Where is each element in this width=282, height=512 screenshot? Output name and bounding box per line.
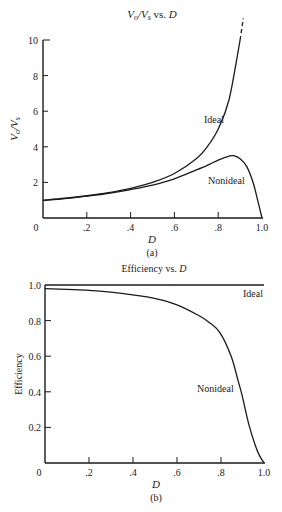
chart-b-x-ticks bbox=[89, 457, 221, 463]
svg-text:1.0: 1.0 bbox=[258, 467, 271, 478]
chart-b: Efficiency vs. D 1.0 0.8 0.6 0.4 0.2 0 .… bbox=[13, 263, 270, 504]
chart-a-x-label: D bbox=[147, 233, 156, 245]
svg-text:1.0: 1.0 bbox=[29, 280, 42, 291]
svg-text:.2: .2 bbox=[85, 467, 93, 478]
svg-text:0.6: 0.6 bbox=[29, 351, 42, 362]
chart-a-y-label: Vo/Vs bbox=[8, 117, 22, 141]
svg-text:0: 0 bbox=[37, 467, 42, 478]
chart-a-ideal-dashed-extension bbox=[240, 18, 243, 40]
chart-b-x-tick-labels: 0 .2 .4 .6 .8 1.0 bbox=[37, 467, 271, 478]
chart-a: Vo/Vs vs. D 10 8 6 4 2 0 .2 bbox=[8, 8, 268, 259]
chart-a-panel-label: (a) bbox=[146, 247, 157, 259]
chart-b-y-ticks bbox=[45, 321, 51, 428]
svg-text:.6: .6 bbox=[171, 222, 179, 233]
figure: Vo/Vs vs. D 10 8 6 4 2 0 .2 bbox=[0, 0, 282, 512]
svg-text:0.8: 0.8 bbox=[29, 316, 42, 327]
svg-text:0: 0 bbox=[34, 222, 39, 233]
svg-text:.2: .2 bbox=[83, 222, 91, 233]
chart-b-ideal-annotation: Ideal bbox=[243, 288, 263, 299]
svg-text:0.4: 0.4 bbox=[29, 387, 42, 398]
svg-text:4: 4 bbox=[33, 142, 38, 153]
chart-a-nonideal-annotation: Nonideal bbox=[208, 175, 245, 186]
svg-text:.8: .8 bbox=[214, 222, 222, 233]
svg-text:.4: .4 bbox=[127, 222, 135, 233]
chart-a-x-ticks bbox=[87, 212, 218, 218]
svg-text:2: 2 bbox=[33, 177, 38, 188]
svg-text:8: 8 bbox=[33, 71, 38, 82]
chart-a-ideal-annotation: Ideal bbox=[204, 114, 224, 125]
svg-text:.4: .4 bbox=[129, 467, 137, 478]
chart-b-nonideal-line bbox=[45, 289, 264, 463]
chart-a-title: Vo/Vs vs. D bbox=[127, 8, 177, 22]
chart-a-x-tick-labels: 0 .2 .4 .6 .8 1.0 bbox=[34, 222, 269, 233]
svg-text:0.2: 0.2 bbox=[29, 422, 42, 433]
chart-a-y-tick-labels: 10 8 6 4 2 bbox=[28, 35, 38, 188]
chart-b-panel-label: (b) bbox=[150, 492, 162, 504]
svg-text:10: 10 bbox=[28, 35, 38, 46]
chart-b-nonideal-annotation: Nonideal bbox=[197, 383, 234, 394]
chart-b-y-tick-labels: 1.0 0.8 0.6 0.4 0.2 bbox=[29, 280, 42, 433]
chart-b-title: Efficiency vs. D bbox=[121, 263, 187, 274]
svg-text:6: 6 bbox=[33, 106, 38, 117]
svg-text:1.0: 1.0 bbox=[256, 222, 269, 233]
svg-text:.8: .8 bbox=[217, 467, 225, 478]
svg-text:.6: .6 bbox=[173, 467, 181, 478]
chart-b-x-label: D bbox=[151, 478, 160, 490]
chart-a-y-ticks bbox=[43, 40, 50, 182]
chart-b-y-label: Efficiency bbox=[13, 353, 24, 394]
chart-a-nonideal-line bbox=[43, 155, 262, 218]
